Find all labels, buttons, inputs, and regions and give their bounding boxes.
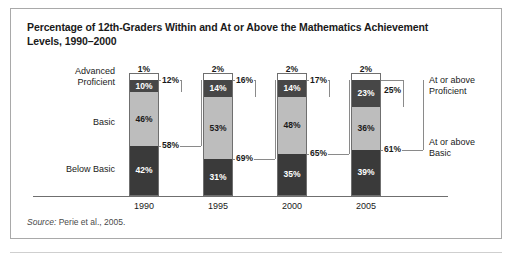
bar-group-2005[interactable]: 2% 23% 36% 39% 25% 61% 2005 — [343, 9, 389, 199]
year-label-2000: 2000 — [269, 201, 315, 211]
plot-area: Advanced Proficient Basic Below Basic 1%… — [11, 9, 503, 240]
at-or-above-proficient-value-2005: 25% — [383, 85, 402, 95]
below-basic-value-2005: 39% — [357, 168, 374, 177]
segment-basic-1995: 53% — [203, 97, 233, 159]
segment-below-basic-1995: 31% — [203, 159, 233, 196]
at-or-above-basic-value-2005: 61% — [383, 144, 402, 154]
at-or-above-basic-value-2000: 65% — [309, 148, 328, 158]
source-note: Source: Perie et al., 2005. — [27, 217, 125, 227]
segment-advanced-1995 — [203, 73, 233, 80]
segment-basic-2005: 36% — [351, 107, 381, 150]
segment-advanced-1990 — [129, 73, 159, 80]
below-basic-value-1995: 31% — [209, 173, 226, 182]
bar-group-1995[interactable]: 2% 14% 53% 31% 16% 69% 1995 — [195, 9, 241, 199]
at-or-above-basic-value-1990: 58% — [161, 140, 180, 150]
year-label-1990: 1990 — [121, 201, 167, 211]
bracket-basic-tick-2005 — [423, 80, 424, 150]
basic-value-2005: 36% — [357, 124, 374, 133]
segment-below-basic-2005: 39% — [351, 150, 381, 196]
segment-proficient-1995: 14% — [203, 80, 233, 97]
segment-proficient-1990: 10% — [129, 80, 159, 92]
proficient-value-1990: 10% — [135, 82, 152, 91]
bracket-proficient-tick-1995 — [255, 80, 256, 97]
segment-basic-2000: 48% — [277, 97, 307, 154]
row-label-proficient: Proficient — [77, 77, 115, 87]
segment-basic-1990: 46% — [129, 92, 159, 146]
achievement-level-labels: Advanced Proficient Basic Below Basic — [31, 9, 115, 199]
at-or-above-proficient-value-1990: 12% — [161, 75, 180, 85]
bracket-proficient-tick-1990 — [181, 80, 182, 92]
segment-advanced-2005 — [351, 73, 381, 80]
proficient-value-2000: 14% — [283, 84, 300, 93]
bar-group-1990[interactable]: 1% 10% 46% 42% 12% 58% 1990 — [121, 9, 167, 199]
source-text: Perie et al., 2005. — [56, 217, 125, 227]
proficient-value-1995: 14% — [209, 84, 226, 93]
below-basic-value-1990: 42% — [135, 166, 152, 175]
note-basic-line2: Basic — [429, 148, 475, 159]
year-label-1995: 1995 — [195, 201, 241, 211]
basic-value-1990: 46% — [135, 115, 152, 124]
segment-advanced-2000 — [277, 73, 307, 80]
below-basic-value-2000: 35% — [283, 170, 300, 179]
bar-group-2000[interactable]: 2% 14% 48% 35% 17% 65% 2000 — [269, 9, 315, 199]
note-at-or-above-proficient: At or above Proficient — [429, 75, 475, 97]
basic-value-2000: 48% — [283, 121, 300, 130]
row-label-below-basic: Below Basic — [66, 164, 115, 174]
row-label-advanced: Advanced — [75, 66, 115, 76]
at-or-above-basic-value-1995: 69% — [235, 153, 254, 163]
source-prefix: Source: — [27, 217, 56, 227]
at-or-above-proficient-value-2000: 17% — [309, 75, 328, 85]
note-basic-line1: At or above — [429, 137, 475, 148]
bracket-proficient-line-2005 — [381, 80, 403, 81]
proficient-value-2005: 23% — [357, 89, 374, 98]
basic-value-1995: 53% — [209, 124, 226, 133]
year-label-2005: 2005 — [343, 201, 389, 211]
segment-proficient-2005: 23% — [351, 80, 381, 107]
row-label-basic: Basic — [93, 117, 115, 127]
bottom-divider — [10, 252, 502, 253]
bracket-proficient-tick-2000 — [329, 80, 330, 97]
figure-panel: Percentage of 12th-Graders Within and At… — [10, 8, 502, 239]
segment-below-basic-2000: 35% — [277, 154, 307, 196]
bracket-proficient-tick-2005 — [403, 80, 404, 107]
segment-proficient-2000: 14% — [277, 80, 307, 97]
at-or-above-proficient-value-1995: 16% — [235, 75, 254, 85]
note-at-or-above-basic: At or above Basic — [429, 137, 475, 159]
note-proficient-line2: Proficient — [429, 86, 475, 97]
note-proficient-line1: At or above — [429, 75, 475, 86]
segment-below-basic-1990: 42% — [129, 146, 159, 196]
